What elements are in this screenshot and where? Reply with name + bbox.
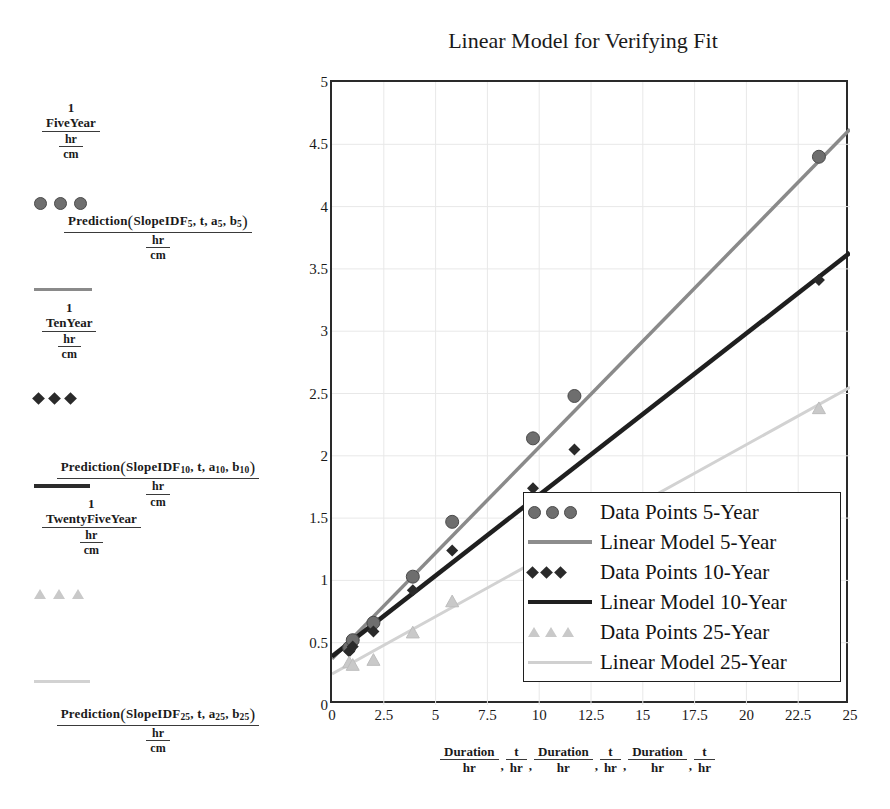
five-year-prediction-prefix: Prediction <box>68 213 128 228</box>
twentyfive-year-b: b <box>232 706 239 721</box>
legend-key-diamonds <box>528 568 600 577</box>
legend-item-data-points-10-year[interactable]: Data Points 10-Year <box>528 557 834 587</box>
ten-year-prediction-prefix: Prediction <box>61 459 121 474</box>
circle-marker-icon <box>74 197 87 210</box>
legend-key-triangles <box>528 627 600 637</box>
five-year-pred-unit-den: cm <box>146 248 169 262</box>
line-swatch-icon <box>528 661 592 664</box>
diamond-marker-icon <box>540 566 553 579</box>
close-paren: ) <box>249 705 255 724</box>
twentyfive-year-b-sub: 25 <box>240 712 250 722</box>
circle-marker-icon <box>528 506 541 519</box>
ten-year-b: b <box>232 459 239 474</box>
circle-marker-icon <box>546 506 559 519</box>
circle-marker-icon <box>34 197 47 210</box>
twentyfive-year-pred-unit-den: cm <box>146 741 169 755</box>
close-paren: ) <box>242 212 248 231</box>
ten-year-unit-num: hr <box>58 332 81 347</box>
legend-block-twentyfive-year-prediction: Prediction(SlopeIDF25, t, a25, b25) hr c… <box>0 705 310 755</box>
twentyfive-year-slopeidf: SlopeIDF <box>126 706 180 721</box>
x-caption-numerator: Duration <box>440 744 499 760</box>
five-year-prediction-denominator: hr cm <box>64 233 252 262</box>
x-axis-tick-label: 22.5 <box>785 707 811 724</box>
triangle-marker-icon <box>545 627 557 637</box>
legend-label: Linear Model 10-Year <box>600 590 787 615</box>
ten-year-unit-fraction: hr cm <box>58 332 81 361</box>
legend-key-circles <box>528 506 600 519</box>
legend-block-five-year: 1 FiveYear hr cm <box>0 100 310 161</box>
diamond-marker-icon <box>48 392 61 405</box>
legend-label: Linear Model 25-Year <box>600 650 787 675</box>
diamond-marker-icon <box>64 392 77 405</box>
x-axis-caption: Durationhr,thr,Durationhr,thr,Durationhr… <box>440 744 715 776</box>
x-axis-tick-label: 25 <box>843 707 858 724</box>
x-caption-numerator: t <box>600 744 621 760</box>
left-math-legend: 1 FiveYear hr cm Prediction(SlopeIDF5, t… <box>0 100 310 680</box>
x-axis-tick-label: 5 <box>432 707 440 724</box>
five-year-fraction: 1 FiveYear hr cm <box>42 100 100 161</box>
x-caption-numerator: t <box>694 744 715 760</box>
diamond-marker-icon <box>32 392 45 405</box>
legend-block-twentyfive-year: 1 TwentyFiveYear hr cm <box>0 496 310 557</box>
x-caption-separator: , <box>689 758 692 776</box>
ten-year-prediction-expr: Prediction(SlopeIDF10, t, a10, b10) <box>57 458 260 479</box>
left-legend-sample-diamonds <box>34 394 75 403</box>
triangle-marker-icon <box>53 589 65 599</box>
legend-item-linear-model-5-year[interactable]: Linear Model 5-Year <box>528 527 834 557</box>
triangle-marker-icon <box>562 627 574 637</box>
twentyfive-year-numerator-top: 1 <box>42 496 141 511</box>
five-year-unit-den: cm <box>59 147 82 161</box>
x-caption-fraction: thr <box>600 744 621 776</box>
legend-item-linear-model-10-year[interactable]: Linear Model 10-Year <box>528 587 834 617</box>
x-caption-fraction: thr <box>694 744 715 776</box>
five-year-pred-unit-num: hr <box>146 233 169 248</box>
ten-year-b-sub: 10 <box>240 465 250 475</box>
chart-title: Linear Model for Verifying Fit <box>318 28 848 54</box>
y-axis-tick-label: 2.5 <box>309 385 328 402</box>
x-caption-denominator: hr <box>506 760 527 775</box>
y-axis-tick-label: 0.5 <box>309 634 328 651</box>
left-legend-sample-line-5-year <box>34 288 92 291</box>
y-axis-tick-label: 1.5 <box>309 510 328 527</box>
legend-key-line-10-year <box>528 600 600 605</box>
twentyfive-year-a-sub: 25 <box>215 712 225 722</box>
legend-item-data-points-5-year[interactable]: Data Points 5-Year <box>528 497 834 527</box>
y-axis-tick-label: 1 <box>321 572 329 589</box>
y-axis-tick-label: 4 <box>321 198 329 215</box>
left-legend-sample-line-25-year <box>34 680 90 683</box>
x-caption-separator: , <box>501 758 504 776</box>
legend-item-data-points-25-year[interactable]: Data Points 25-Year <box>528 617 834 647</box>
triangle-marker-icon <box>34 589 46 599</box>
five-year-prediction-fraction: Prediction(SlopeIDF5, t, a5, b5) hr cm <box>64 212 252 262</box>
legend-block-five-year-prediction: Prediction(SlopeIDF5, t, a5, b5) hr cm <box>0 212 310 262</box>
line-swatch-icon <box>528 540 592 544</box>
x-caption-numerator: Duration <box>628 744 687 760</box>
five-year-unit-num: hr <box>59 132 82 147</box>
chart-legend: Data Points 5-Year Linear Model 5-Year D… <box>523 492 841 682</box>
twentyfive-year-pred-unit-num: hr <box>146 726 169 741</box>
twentyfive-year-prediction-prefix: Prediction <box>61 706 121 721</box>
legend-label: Linear Model 5-Year <box>600 530 776 555</box>
five-year-slopeidf-sub: 5 <box>188 219 193 229</box>
x-caption-numerator: t <box>506 744 527 760</box>
y-axis-tick-label: 2 <box>321 447 329 464</box>
five-year-numerator-mid: FiveYear <box>42 115 100 131</box>
legend-label: Data Points 10-Year <box>600 560 769 585</box>
y-axis-tick-label: 3.5 <box>309 260 328 277</box>
legend-item-linear-model-25-year[interactable]: Linear Model 25-Year <box>528 647 834 677</box>
legend-label: Data Points 25-Year <box>600 620 769 645</box>
legend-label: Data Points 5-Year <box>600 500 759 525</box>
x-caption-numerator: Duration <box>534 744 593 760</box>
x-caption-denominator: hr <box>440 760 499 775</box>
left-legend-sample-circles <box>34 197 87 210</box>
x-axis-tick-label: 10 <box>532 707 547 724</box>
five-year-prediction-expr: Prediction(SlopeIDF5, t, a5, b5) <box>64 212 252 233</box>
ten-year-numerator-top: 1 <box>42 300 96 315</box>
circle-marker-icon <box>564 506 577 519</box>
ten-year-unit-den: cm <box>58 347 81 361</box>
x-caption-fraction: Durationhr <box>534 744 593 776</box>
ten-year-fraction: 1 TenYear hr cm <box>42 300 96 361</box>
left-legend-sample-triangles <box>34 589 84 599</box>
x-caption-fraction: thr <box>506 744 527 776</box>
diamond-marker-icon <box>554 566 567 579</box>
